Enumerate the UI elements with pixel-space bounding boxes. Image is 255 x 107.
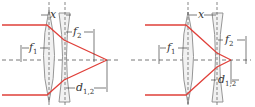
label-f2: f2 (225, 34, 234, 48)
panel-left: x f1 f2 d1,2 (0, 0, 128, 107)
label-d12: d1,2 (218, 74, 236, 88)
label-f1: f1 (167, 42, 176, 56)
lens-system-diagram-left (0, 0, 128, 107)
label-d12: d1,2 (76, 82, 94, 96)
diverging-lens (212, 13, 223, 102)
lens-system-diagram-right (127, 0, 255, 107)
panel-right: x f1 f2 d1,2 (127, 0, 255, 107)
label-x: x (198, 9, 204, 20)
label-f2: f2 (73, 26, 82, 40)
label-f1: f1 (29, 42, 38, 56)
diverging-lens (59, 13, 70, 102)
label-x: x (50, 9, 56, 20)
